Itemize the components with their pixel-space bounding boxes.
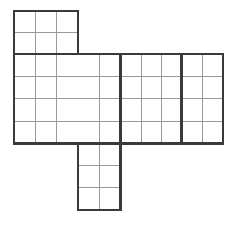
figure-root: Grid net diagramBlack-outlined polyomino…: [0, 0, 239, 226]
net-diagram: Grid net diagramBlack-outlined polyomino…: [0, 0, 239, 226]
